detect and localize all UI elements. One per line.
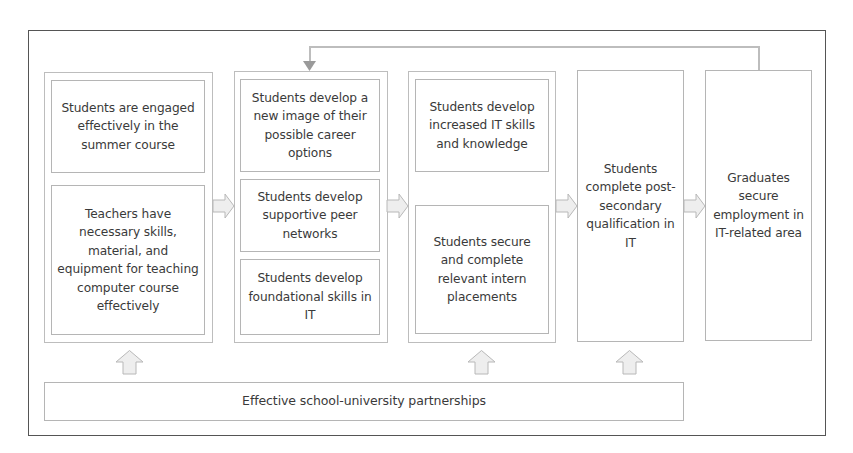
arrow-up-icon bbox=[116, 350, 144, 375]
box-school-university-partnerships: Effective school-university partnerships bbox=[44, 382, 684, 421]
box-increased-it-skills: Students develop increased IT skills and… bbox=[415, 79, 549, 172]
box-foundational-skills: Students develop foundational skills in … bbox=[240, 259, 380, 335]
box-label: Students develop a new image of their po… bbox=[247, 89, 373, 163]
arrow-right-icon bbox=[387, 193, 409, 219]
box-label: Students develop supportive peer network… bbox=[247, 188, 373, 244]
box-students-engaged: Students are engaged effectively in the … bbox=[51, 80, 205, 173]
box-label: Students complete post-secondary qualifi… bbox=[582, 160, 679, 253]
box-label: Graduates secure employment in IT-relate… bbox=[710, 169, 807, 243]
box-intern-placements: Students secure and complete relevant in… bbox=[415, 205, 549, 334]
feedback-line-horizontal bbox=[309, 46, 760, 48]
box-career-image: Students develop a new image of their po… bbox=[240, 79, 380, 172]
box-label: Students develop foundational skills in … bbox=[247, 269, 373, 325]
arrow-right-icon bbox=[556, 193, 578, 219]
arrow-right-icon bbox=[213, 193, 235, 219]
arrow-right-icon bbox=[684, 193, 706, 219]
arrow-up-icon bbox=[616, 350, 644, 375]
box-label: Students develop increased IT skills and… bbox=[422, 98, 542, 154]
box-teachers-skills: Teachers have necessary skills, material… bbox=[51, 185, 205, 335]
arrow-up-icon bbox=[468, 350, 496, 375]
box-peer-networks: Students develop supportive peer network… bbox=[240, 179, 380, 252]
box-graduates-employment: Graduates secure employment in IT-relate… bbox=[705, 70, 812, 341]
box-label: Teachers have necessary skills, material… bbox=[56, 205, 200, 316]
box-label: Students secure and complete relevant in… bbox=[422, 233, 542, 307]
feedback-line-vertical-right bbox=[758, 46, 760, 70]
box-post-secondary-qualification: Students complete post-secondary qualifi… bbox=[577, 70, 684, 342]
box-label: Students are engaged effectively in the … bbox=[58, 99, 198, 155]
box-label: Effective school-university partnerships bbox=[242, 392, 486, 411]
feedback-line-vertical-left bbox=[309, 46, 311, 62]
